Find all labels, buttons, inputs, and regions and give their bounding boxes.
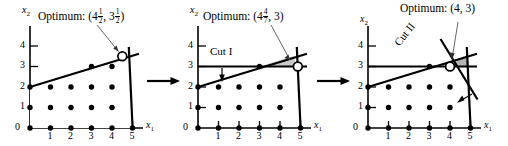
y-axis-label: x2 xyxy=(22,4,30,18)
tick-x-2: 2 xyxy=(68,130,73,141)
tick-y-1: 1 xyxy=(358,100,363,111)
optimum-leader xyxy=(271,25,290,60)
optimum-marker xyxy=(118,52,127,61)
tick-origin: 0 xyxy=(183,121,188,132)
optimum-leader xyxy=(449,22,458,60)
x-axis-label: x1 xyxy=(314,119,322,133)
y-axis-label: x2 xyxy=(190,4,198,18)
cut-1-label: Cut I xyxy=(210,45,232,57)
optimum-label: Optimum: (4, 3) xyxy=(400,2,475,14)
tick-y-4: 4 xyxy=(188,39,193,50)
tick-x-5: 5 xyxy=(298,130,303,141)
optimum-label-suffix: ) xyxy=(280,10,284,22)
tick-x-5: 5 xyxy=(468,130,473,141)
constraint-line-upper xyxy=(198,54,307,87)
tick-y-1: 1 xyxy=(188,100,193,111)
tick-y-2: 2 xyxy=(188,80,193,91)
optimum-label: Optimum: (447, 3) xyxy=(203,8,284,25)
tick-y-3: 3 xyxy=(358,59,363,70)
lattice-points xyxy=(195,64,303,131)
tick-y-4: 4 xyxy=(20,39,25,50)
optimum-leader xyxy=(97,25,119,52)
tick-x-5: 5 xyxy=(130,130,135,141)
optimum-marker xyxy=(293,62,302,71)
tick-origin: 0 xyxy=(353,121,358,132)
tick-x-3: 3 xyxy=(427,130,432,141)
optimum-label-prefix: Optimum: (4 xyxy=(38,10,98,22)
optimum-label-mid: , 3 xyxy=(103,10,115,22)
optimum-label-prefix: Optimum: (4 xyxy=(203,10,263,22)
y-tick-marks xyxy=(368,46,376,108)
y-tick-marks xyxy=(198,46,206,108)
tick-y-3: 3 xyxy=(188,59,193,70)
tick-y-4: 4 xyxy=(358,39,363,50)
optimum-label-prefix: Optimum: (4, 3) xyxy=(400,2,475,14)
optimum-label-mid: , 3 xyxy=(268,10,280,22)
panel-iteration-2: x2 x1 0 1 2 3 4 1 2 3 4 5 Optimum: (447,… xyxy=(168,0,338,146)
tick-x-1: 1 xyxy=(386,130,391,141)
constraint-line-right xyxy=(297,47,301,129)
axis-lines xyxy=(198,26,311,128)
panel-iteration-1: x2 x1 0 1 2 3 4 1 2 3 4 5 Optimum: (412,… xyxy=(0,0,170,146)
tick-x-4: 4 xyxy=(277,130,282,141)
tick-y-2: 2 xyxy=(20,80,25,91)
cut-off-region xyxy=(260,56,297,66)
tick-x-1: 1 xyxy=(216,130,221,141)
optimum-label-suffix: ) xyxy=(120,10,124,22)
tick-x-4: 4 xyxy=(447,130,452,141)
tick-x-2: 2 xyxy=(236,130,241,141)
optimum-label: Optimum: (412, 312) xyxy=(38,8,124,25)
x-axis-label: x1 xyxy=(484,119,492,133)
tick-x-4: 4 xyxy=(109,130,114,141)
y-axis-label: x2 xyxy=(360,13,368,27)
tick-origin: 0 xyxy=(15,121,20,132)
tick-y-1: 1 xyxy=(20,100,25,111)
optimum-marker xyxy=(446,62,455,71)
tick-y-2: 2 xyxy=(358,80,363,91)
lattice-points xyxy=(365,64,473,131)
tick-x-1: 1 xyxy=(48,130,53,141)
feasible-region xyxy=(30,52,133,129)
x-axis-label: x1 xyxy=(146,119,154,133)
tick-y-3: 3 xyxy=(20,59,25,70)
tick-x-3: 3 xyxy=(89,130,94,141)
tick-x-3: 3 xyxy=(257,130,262,141)
tick-x-2: 2 xyxy=(406,130,411,141)
panel-iteration-3: x2 x1 0 1 2 3 4 1 2 3 4 5 Optimum: (4, 3… xyxy=(338,0,508,146)
cutting-plane-figure: x2 x1 0 1 2 3 4 1 2 3 4 5 Optimum: (412,… xyxy=(0,0,508,146)
